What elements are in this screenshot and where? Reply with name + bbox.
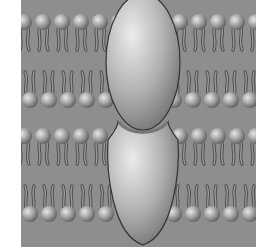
membrane-diagram xyxy=(0,0,271,247)
upper-connexon xyxy=(106,0,180,130)
